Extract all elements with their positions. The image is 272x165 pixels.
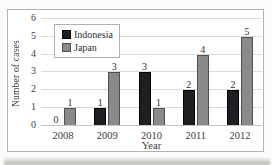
bar-japan-2010: 1 xyxy=(153,108,165,126)
bar-japan-2011: 4 xyxy=(197,55,209,126)
bar-value-label: 0 xyxy=(54,114,59,125)
y-tick-label: 1 xyxy=(14,102,36,112)
y-tick-label: 3 xyxy=(14,66,36,76)
bar-value-label: 2 xyxy=(186,79,191,90)
bar-japan-2009: 3 xyxy=(108,72,120,126)
bar-value-label: 3 xyxy=(112,61,117,72)
y-tick-label: 6 xyxy=(14,13,36,23)
bar-indonesia-2011: 2 xyxy=(183,90,195,126)
legend-label-japan: Japan xyxy=(74,41,97,54)
bar-japan-2012: 5 xyxy=(241,37,253,126)
legend-item-japan: Japan xyxy=(62,41,119,54)
bar-indonesia-2009: 1 xyxy=(94,108,106,126)
bar-group-2011: 242011 xyxy=(174,19,218,126)
y-tick-label: 0 xyxy=(14,120,36,130)
bar-group-2010: 312010 xyxy=(129,19,173,126)
scan-artifact xyxy=(4,157,270,165)
y-tick-label: 2 xyxy=(14,84,36,94)
bar-group-2012: 252012 xyxy=(218,19,262,126)
x-axis-title: Year xyxy=(41,140,262,151)
legend-swatch-indonesia xyxy=(62,30,71,39)
chart-figure: Number of cases 0123456 0120081320093120… xyxy=(7,9,264,152)
legend: Indonesia Japan xyxy=(54,24,120,58)
y-tick-label: 5 xyxy=(14,31,36,41)
legend-item-indonesia: Indonesia xyxy=(62,28,119,41)
x-axis-line xyxy=(41,125,262,126)
y-tick-label: 4 xyxy=(14,49,36,59)
bar-value-label: 3 xyxy=(142,61,147,72)
bar-value-label: 1 xyxy=(68,97,73,108)
bar-value-label: 2 xyxy=(230,79,235,90)
legend-swatch-japan xyxy=(62,43,71,52)
bar-value-label: 4 xyxy=(200,44,205,55)
bar-japan-2008: 1 xyxy=(64,108,76,126)
bar-value-label: 1 xyxy=(98,97,103,108)
legend-label-indonesia: Indonesia xyxy=(74,28,113,41)
bar-indonesia-2010: 3 xyxy=(139,72,151,126)
bar-value-label: 1 xyxy=(156,97,161,108)
bar-indonesia-2012: 2 xyxy=(227,90,239,126)
bar-value-label: 5 xyxy=(244,26,249,37)
